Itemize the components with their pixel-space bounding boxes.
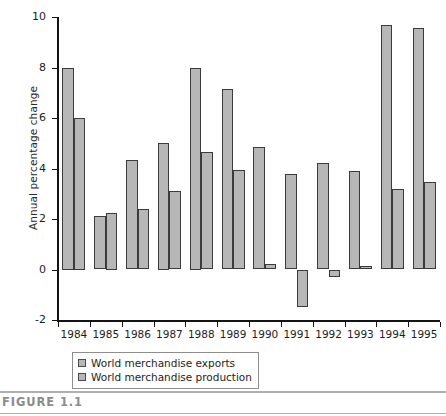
bar [392,189,404,270]
y-tick-label: 0 [22,264,46,275]
bar [329,270,341,278]
y-tick-mark [52,68,57,69]
bar [158,143,170,269]
caption-rule-top [0,391,446,393]
bar [222,89,234,270]
bar [265,264,277,269]
y-tick-mark [52,270,57,271]
x-tick-mark [90,322,91,327]
caption-rule-bottom [0,413,446,414]
bar [94,216,106,269]
bar [360,266,372,270]
y-tick-mark [52,169,57,170]
bar [424,182,436,269]
x-tick-mark [122,322,123,327]
y-tick-label: 2 [22,213,46,224]
legend-label-exports: World merchandise exports [91,357,235,369]
y-axis-title: Annual percentage change [27,63,39,253]
legend-item-production: World merchandise production [78,370,252,384]
x-tick-mark [185,322,186,327]
y-tick-mark [52,219,57,220]
x-tick-mark [376,322,377,327]
bar [190,68,202,270]
bar [297,270,309,308]
bar [62,68,74,270]
x-tick-mark [440,322,441,327]
bar [253,147,265,269]
bar [381,25,393,270]
legend-swatch-icon [78,373,86,381]
figure-container: Annual percentage change -20246810 19841… [0,0,446,416]
y-tick-label: 6 [22,112,46,123]
bar [201,152,213,269]
bar-chart: Annual percentage change -20246810 19841… [0,0,446,348]
legend-item-exports: World merchandise exports [78,356,252,370]
legend-label-production: World merchandise production [91,371,252,383]
x-tick-mark [408,322,409,327]
bar [285,174,297,270]
x-tick-mark [58,322,59,327]
bar [233,170,245,270]
bar [349,171,361,269]
y-tick-label: 8 [22,62,46,73]
x-tick-mark [313,322,314,327]
x-tick-mark [249,322,250,327]
y-tick-label: 10 [22,11,46,22]
y-tick-label: -2 [22,314,46,325]
y-tick-mark [52,17,57,18]
figure-caption: FIGURE 1.1 [2,395,83,409]
x-tick-mark [154,322,155,327]
chart-legend: World merchandise exports World merchand… [72,352,259,389]
y-tick-label: 4 [22,163,46,174]
x-tick-mark [281,322,282,327]
y-axis-line [57,17,59,321]
x-tick-label: 1995 [404,328,444,340]
y-tick-mark [52,118,57,119]
bar [74,118,86,270]
legend-swatch-icon [78,359,86,367]
bar [106,213,118,270]
y-tick-mark [52,320,57,321]
x-tick-mark [345,322,346,327]
bar [413,28,425,269]
x-tick-mark [217,322,218,327]
bar [138,209,150,270]
bar [126,160,138,270]
bar [169,191,181,269]
bar [317,163,329,269]
